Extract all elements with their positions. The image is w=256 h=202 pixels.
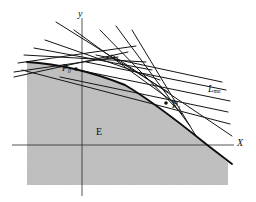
point-label-p1-subscript: 1 [178,105,181,111]
y-axis-label: y [78,9,82,19]
point-label-p0-subscript: 0 [68,68,71,74]
cut-off-caption [74,0,182,4]
region-label-E: E [96,127,102,137]
line-family-label-subscript: mn [214,88,221,94]
point-label-p0: P0 [62,64,71,75]
point-label-p1: P1 [172,101,181,112]
point-P0-marker [74,67,78,71]
convex-region-figure [0,0,256,202]
point-P1-marker [164,101,168,105]
x-axis-label: X [237,138,243,148]
line-family-label: Lmn [208,84,221,95]
